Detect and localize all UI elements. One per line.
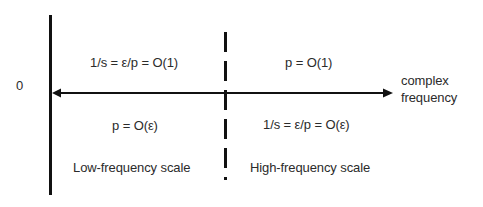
low-frequency-scale-label: Low-frequency scale bbox=[73, 160, 190, 175]
frequency-scale-diagram: 0 complex frequency 1/s = ε/p = O(1) p =… bbox=[0, 0, 483, 207]
high-region-upper-label: p = O(1) bbox=[285, 55, 332, 70]
axis-left-arrowhead-icon bbox=[52, 89, 61, 98]
axis-right-arrowhead-icon bbox=[383, 89, 393, 98]
axis-label-complex: complex bbox=[401, 73, 449, 88]
high-frequency-scale-label: High-frequency scale bbox=[250, 160, 370, 175]
high-region-lower-label: 1/s = ε/p = O(ε) bbox=[263, 117, 350, 132]
low-region-upper-label: 1/s = ε/p = O(1) bbox=[90, 55, 178, 70]
axis-label-frequency: frequency bbox=[401, 90, 457, 105]
low-region-lower-label: p = O(ε) bbox=[112, 118, 158, 133]
origin-label: 0 bbox=[16, 78, 23, 93]
